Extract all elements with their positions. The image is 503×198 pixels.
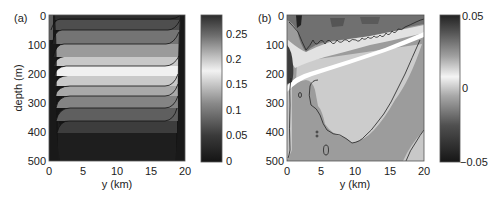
svg-text:200: 200 <box>28 68 46 80</box>
panel-a-heatmap <box>49 15 189 161</box>
panel-a-colorbar: 0 0.05 0.1 0.15 0.2 0.25 <box>201 15 247 167</box>
svg-text:−0.05: −0.05 <box>460 156 488 168</box>
panel-b-heatmap <box>287 15 424 161</box>
svg-text:500: 500 <box>266 155 284 167</box>
svg-text:400: 400 <box>28 126 46 138</box>
svg-text:10: 10 <box>111 165 123 177</box>
svg-text:0.15: 0.15 <box>226 78 247 90</box>
panel-b-label: (b) <box>258 12 271 24</box>
svg-text:10: 10 <box>349 165 361 177</box>
panel-a: (a) <box>12 10 247 190</box>
svg-text:0: 0 <box>284 165 290 177</box>
panel-a-yticks: 0 100 200 300 400 500 <box>28 10 46 167</box>
panel-b-colorbar: 0.05 0 −0.05 <box>440 10 488 168</box>
svg-text:15: 15 <box>384 165 396 177</box>
svg-text:0.25: 0.25 <box>226 28 247 40</box>
svg-text:100: 100 <box>266 39 284 51</box>
svg-text:0.05: 0.05 <box>226 129 247 141</box>
svg-text:0: 0 <box>278 10 284 22</box>
svg-text:0.2: 0.2 <box>226 53 241 65</box>
svg-text:0.1: 0.1 <box>226 104 241 116</box>
svg-text:100: 100 <box>28 39 46 51</box>
svg-text:0: 0 <box>46 165 52 177</box>
svg-text:200: 200 <box>266 68 284 80</box>
svg-text:500: 500 <box>28 155 46 167</box>
panel-b: (b) <box>258 10 488 190</box>
panel-a-ylabel: depth (m) <box>12 64 24 111</box>
svg-text:300: 300 <box>28 97 46 109</box>
svg-text:20: 20 <box>418 165 430 177</box>
svg-text:400: 400 <box>266 126 284 138</box>
panel-a-xticks: 0 5 10 15 20 <box>46 165 191 177</box>
svg-text:0: 0 <box>226 155 232 167</box>
svg-text:20: 20 <box>179 165 191 177</box>
svg-text:5: 5 <box>80 165 86 177</box>
svg-text:15: 15 <box>145 165 157 177</box>
figure: (a) <box>0 0 503 198</box>
svg-text:0: 0 <box>462 82 468 94</box>
svg-text:0.05: 0.05 <box>462 10 483 22</box>
panel-a-xlabel: y (km) <box>102 178 133 190</box>
svg-text:5: 5 <box>318 165 324 177</box>
panel-b-yticks: 0 100 200 300 400 500 <box>266 10 284 167</box>
panel-b-xlabel: y (km) <box>340 178 371 190</box>
panel-a-label: (a) <box>14 12 27 24</box>
panel-b-xticks: 0 5 10 15 20 <box>284 165 430 177</box>
svg-text:0: 0 <box>40 10 46 22</box>
svg-text:300: 300 <box>266 97 284 109</box>
